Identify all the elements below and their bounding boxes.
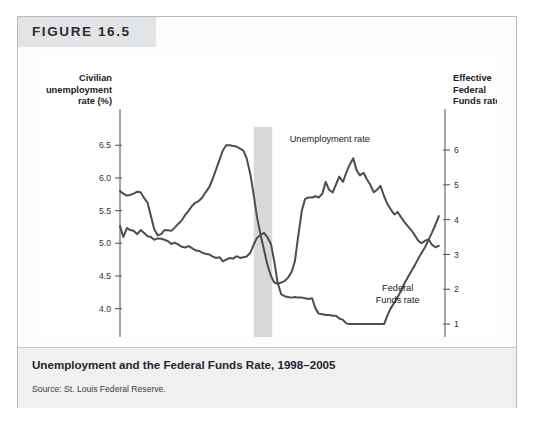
left-axis-tick-4: 4.5 <box>99 271 111 281</box>
left-axis-tick-1: 6.0 <box>99 173 111 183</box>
recession-band <box>254 127 273 337</box>
unemployment-rate-label: Unemployment rate <box>290 134 370 144</box>
right-axis-tick-0: 6 <box>454 145 459 155</box>
right-axis-title-line-0: Effective <box>453 73 492 83</box>
chart-panel: 6.56.05.55.04.54.06543211998199920002001… <box>37 55 497 337</box>
federal-funds-rate-label-line-0: Federal <box>382 283 413 293</box>
figure-number-label: FIGURE 16.5 <box>32 24 131 39</box>
left-axis-title-line-1: unemployment <box>46 85 112 95</box>
series-line-unemployment-rate <box>120 145 439 283</box>
caption-band: Unemployment and the Federal Funds Rate,… <box>18 347 516 408</box>
figure-frame: FIGURE 16.5 6.56.05.55.04.54.06543211998… <box>17 16 517 408</box>
figure-source: Source: St. Louis Federal Reserve. <box>32 384 166 394</box>
figure-caption: Unemployment and the Federal Funds Rate,… <box>32 358 335 371</box>
left-axis-tick-5: 4.0 <box>99 304 111 314</box>
chart-canvas: 6.56.05.55.04.54.06543211998199920002001… <box>37 55 497 337</box>
left-axis-title-line-0: Civilian <box>79 73 112 83</box>
left-axis-tick-2: 5.5 <box>99 206 111 216</box>
right-axis-tick-4: 2 <box>454 284 459 294</box>
right-axis-tick-5: 1 <box>454 319 459 329</box>
right-axis-tick-2: 4 <box>454 215 459 225</box>
federal-funds-rate-label-line-1: Funds rate <box>376 295 420 305</box>
series-line-federal-funds-rate <box>120 216 439 324</box>
right-axis-tick-1: 5 <box>454 180 459 190</box>
right-axis-tick-3: 3 <box>454 250 459 260</box>
left-axis-tick-3: 5.0 <box>99 238 111 248</box>
right-axis-title-line-2: Funds rate (%) <box>453 96 497 106</box>
left-axis-title-line-2: rate (%) <box>78 96 112 106</box>
right-axis-title-line-1: Federal <box>453 85 486 95</box>
left-axis-tick-0: 6.5 <box>99 140 111 150</box>
